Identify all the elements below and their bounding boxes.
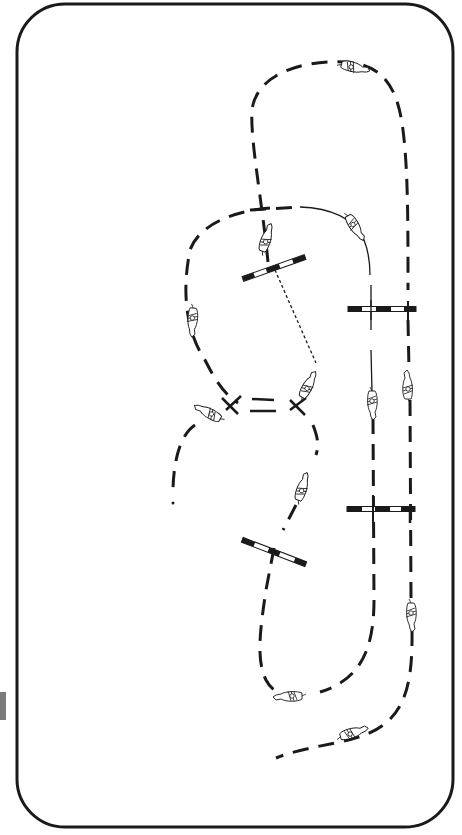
jump-upper-right-vertical-pole: [348, 301, 416, 323]
track-middle-top-dash: [250, 207, 300, 210]
page-edge-tab: [0, 692, 6, 720]
track-middle-loop-solid: [300, 207, 370, 275]
track-top-loop: [252, 62, 408, 290]
horse-icon: [403, 370, 413, 403]
track-middle-loop: [186, 208, 270, 403]
horse-icon: [292, 471, 313, 506]
horse-icon: [295, 369, 320, 403]
horse-icon: [342, 210, 367, 244]
course-diagram: [0, 0, 462, 835]
track-inner-right-lane: [320, 418, 374, 692]
track-lower-left-arc: [173, 425, 195, 488]
horse-icon: [273, 691, 306, 701]
horse-icon: [367, 387, 377, 420]
arena-border: [17, 4, 453, 827]
horse-icon: [186, 304, 199, 338]
track-center-right-curve: [313, 425, 318, 455]
track-crossing-marks: [222, 396, 306, 415]
track-lower-center: [260, 505, 296, 694]
horse-icon: [406, 599, 416, 632]
jump-upper-left-diagonal: [242, 255, 306, 282]
jump-lower-left-diagonal: [241, 537, 306, 566]
horse-icon: [192, 400, 226, 425]
jump-lower-right-vertical-pole: [347, 495, 415, 523]
track-diagonal-dotted: [275, 270, 316, 363]
